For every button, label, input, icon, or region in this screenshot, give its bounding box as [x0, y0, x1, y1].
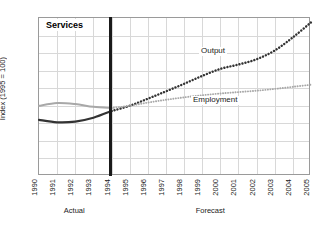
series-line-historical [39, 103, 112, 108]
x-axis-tick-label: 1993 [85, 179, 93, 196]
y-axis-title: Index (1995 = 100) [0, 57, 7, 120]
x-axis-tick-label: 1998 [176, 179, 184, 196]
x-axis-tick-label: 1994 [103, 179, 111, 196]
x-axis-tick-label: 2004 [284, 179, 292, 196]
actual-forecast-divider [109, 17, 111, 176]
x-axis-tick-label: 2002 [248, 179, 256, 196]
series-line-historical [39, 111, 112, 122]
plot-area [38, 17, 310, 175]
x-axis-tick-label: 2001 [230, 179, 238, 196]
x-axis-tick-label: 1999 [194, 179, 202, 196]
x-axis-tick-label: 2003 [266, 179, 274, 196]
x-axis-tick-label: 1991 [49, 179, 57, 196]
x-axis-tick-label: 1996 [139, 179, 147, 196]
x-axis-tick-label: 1997 [157, 179, 165, 196]
x-axis-tick-label: 2005 [303, 179, 311, 196]
series-lines [39, 18, 311, 176]
phase-label: Actual [64, 206, 85, 215]
x-axis-tick-label: 1995 [121, 179, 129, 196]
x-axis-tick-label: 1990 [31, 179, 39, 196]
phase-label: Forecast [196, 206, 225, 215]
chart-title: Services [44, 19, 86, 31]
series-label-employment: Employment [191, 96, 239, 105]
x-axis-tick-label: 2000 [212, 179, 220, 196]
services-index-chart: Index (1995 = 100) 150140130120110100908… [0, 0, 322, 226]
x-axis-tick-label: 1992 [67, 179, 75, 196]
series-label-output: Output [199, 47, 227, 56]
